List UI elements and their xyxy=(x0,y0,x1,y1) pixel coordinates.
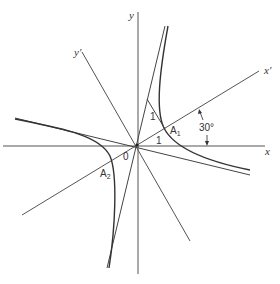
vertex-a1-label: A1 xyxy=(170,125,181,137)
origin-point xyxy=(136,144,139,147)
y-axis-label: y xyxy=(128,9,134,21)
segment-label-2: 1 xyxy=(156,135,162,146)
asymptote-2 xyxy=(107,26,165,268)
hyperbola-branch-upper xyxy=(159,26,250,170)
angle-arrowhead-top xyxy=(198,109,202,114)
x-axis-label: x xyxy=(264,145,270,157)
hyperbola-branch-lower xyxy=(15,119,115,268)
hyperbola-diagram: x y x′ y′ 0 30° 1 1 A1 A2 xyxy=(0,0,280,284)
vertex-a2-label: A2 xyxy=(100,168,111,180)
y-prime-axis-label: y′ xyxy=(73,46,82,58)
angle-label: 30° xyxy=(199,122,214,133)
x-prime-axis-label: x′ xyxy=(263,64,272,76)
segment-label-1: 1 xyxy=(150,111,156,122)
angle-arrowhead-bottom xyxy=(205,141,209,146)
x-prime-axis xyxy=(22,71,259,215)
origin-label: 0 xyxy=(123,151,129,162)
